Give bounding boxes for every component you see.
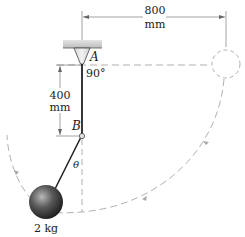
vertical-dim-unit: mm (50, 101, 71, 114)
label-point-a: A (89, 50, 99, 64)
support-bracket (74, 48, 90, 64)
initial-position-circle (212, 50, 240, 78)
label-angle-a: 90° (86, 67, 106, 80)
pendulum-diagram: 800 mm 400 mm A 90° B θ 2 kg (0, 0, 245, 237)
label-point-b: B (71, 119, 81, 133)
ceiling-hatch (63, 40, 102, 48)
pin-b (79, 133, 84, 138)
path-direction-arrow-2 (142, 196, 147, 201)
dim-arrow-right (219, 15, 225, 19)
vdim-arrow-top (58, 66, 62, 72)
path-direction-arrow-3 (14, 170, 19, 175)
horizontal-dim-value: 800 (145, 4, 166, 17)
vdim-arrow-bottom (58, 129, 62, 135)
ball-mass (29, 185, 63, 219)
label-mass: 2 kg (34, 222, 58, 235)
horizontal-dimension: 800 mm (82, 4, 226, 47)
swing-path-left-dashed (7, 135, 32, 200)
path-direction-arrow-1 (203, 141, 209, 145)
horizontal-dim-unit: mm (145, 18, 166, 31)
dim-arrow-left (83, 15, 89, 19)
label-theta: θ (73, 159, 79, 170)
